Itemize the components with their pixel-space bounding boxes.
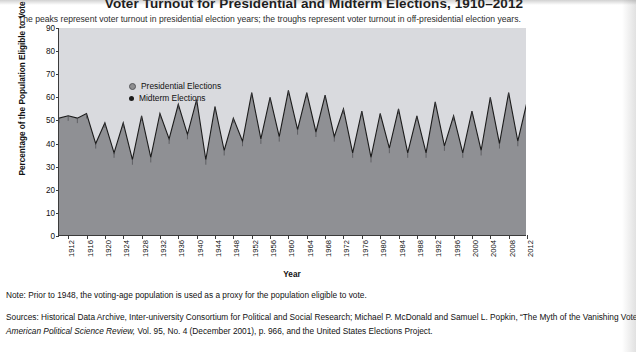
y-tick-mark bbox=[56, 28, 59, 29]
x-tick-label: 1960 bbox=[287, 240, 296, 257]
sources-line-1: Sources: Historical Data Archive, Inter-… bbox=[6, 312, 634, 322]
x-tick-mark bbox=[490, 235, 491, 239]
x-tick-label: 1940 bbox=[195, 240, 204, 257]
x-tick-mark bbox=[417, 235, 418, 239]
x-tick-label: 1976 bbox=[360, 240, 369, 257]
midterm-marker-icon bbox=[129, 96, 134, 101]
plot-inner bbox=[59, 28, 526, 235]
x-tick-label: 2000 bbox=[470, 240, 479, 257]
chart-note: Note: Prior to 1948, the voting-age popu… bbox=[6, 290, 626, 300]
x-tick-mark bbox=[197, 235, 198, 239]
x-tick-label: 1944 bbox=[214, 240, 223, 257]
x-tick-mark bbox=[215, 235, 216, 239]
x-tick-label: 1996 bbox=[452, 240, 461, 257]
x-tick-mark bbox=[307, 235, 308, 239]
x-tick-label: 1916 bbox=[85, 240, 94, 257]
plot-area: 0102030405060708090 19121916192019241928… bbox=[58, 28, 526, 236]
y-tick-mark bbox=[56, 97, 59, 98]
x-tick-label: 2004 bbox=[489, 240, 498, 257]
y-tick-label: 70 bbox=[35, 70, 55, 79]
x-tick-mark bbox=[435, 235, 436, 239]
legend-label-midterm: Midterm Elections bbox=[139, 92, 206, 104]
x-tick-label: 1972 bbox=[342, 240, 351, 257]
page-title: Voter Turnout for Presidential and Midte… bbox=[34, 0, 594, 11]
x-tick-label: 1988 bbox=[415, 240, 424, 257]
x-tick-label: 1920 bbox=[103, 240, 112, 257]
x-tick-label: 1924 bbox=[122, 240, 131, 257]
chart-subtitle: The peaks represent voter turnout in pre… bbox=[18, 14, 618, 24]
y-tick-label: 20 bbox=[35, 185, 55, 194]
x-tick-mark bbox=[399, 235, 400, 239]
x-tick-label: 1968 bbox=[324, 240, 333, 257]
x-tick-label: 1928 bbox=[140, 240, 149, 257]
x-tick-mark bbox=[343, 235, 344, 239]
x-tick-label: 1936 bbox=[177, 240, 186, 257]
x-tick-label: 1964 bbox=[305, 240, 314, 257]
y-tick-label: 60 bbox=[35, 93, 55, 102]
x-tick-mark bbox=[472, 235, 473, 239]
x-tick-mark bbox=[362, 235, 363, 239]
y-tick-label: 30 bbox=[35, 162, 55, 171]
x-axis-label: Year bbox=[58, 270, 526, 279]
x-tick-label: 2008 bbox=[507, 240, 516, 257]
y-tick-label: 90 bbox=[35, 24, 55, 33]
x-tick-mark bbox=[105, 235, 106, 239]
x-tick-mark bbox=[87, 235, 88, 239]
sources-line-2: American Political Science Review, Vol. … bbox=[6, 326, 634, 336]
presidential-marker-icon bbox=[129, 83, 136, 90]
chart-page: Voter Turnout for Presidential and Midte… bbox=[0, 0, 636, 352]
y-tick-label: 40 bbox=[35, 139, 55, 148]
turnout-area-fill bbox=[59, 90, 526, 235]
x-tick-label: 2012 bbox=[526, 240, 535, 257]
y-tick-label: 50 bbox=[35, 116, 55, 125]
y-tick-mark bbox=[56, 167, 59, 168]
x-tick-mark bbox=[178, 235, 179, 239]
x-tick-mark bbox=[509, 235, 510, 239]
y-axis-label: Percentage of the Population Eligible to… bbox=[18, 0, 27, 189]
sources-journal-title: American Political Science Review, bbox=[6, 326, 135, 336]
x-tick-label: 1992 bbox=[434, 240, 443, 257]
legend-item-presidential: Presidential Elections bbox=[129, 80, 221, 92]
x-tick-mark bbox=[454, 235, 455, 239]
x-tick-label: 1912 bbox=[67, 240, 76, 257]
y-tick-mark bbox=[56, 74, 59, 75]
turnout-area-chart bbox=[59, 28, 526, 235]
x-tick-mark bbox=[288, 235, 289, 239]
y-tick-mark bbox=[56, 236, 59, 237]
y-tick-label: 0 bbox=[35, 232, 55, 241]
x-tick-label: 1980 bbox=[379, 240, 388, 257]
x-tick-mark bbox=[160, 235, 161, 239]
x-tick-label: 1932 bbox=[158, 240, 167, 257]
x-tick-mark bbox=[270, 235, 271, 239]
x-tick-mark bbox=[123, 235, 124, 239]
legend-label-presidential: Presidential Elections bbox=[141, 80, 221, 92]
x-tick-label: 1984 bbox=[397, 240, 406, 257]
y-tick-mark bbox=[56, 144, 59, 145]
y-tick-mark bbox=[56, 120, 59, 121]
x-tick-mark bbox=[252, 235, 253, 239]
x-tick-mark bbox=[233, 235, 234, 239]
chart-legend: Presidential Elections Midterm Elections bbox=[129, 80, 221, 104]
x-tick-mark bbox=[325, 235, 326, 239]
x-tick-mark bbox=[380, 235, 381, 239]
x-tick-mark bbox=[68, 235, 69, 239]
y-tick-mark bbox=[56, 213, 59, 214]
y-tick-label: 10 bbox=[35, 208, 55, 217]
x-tick-label: 1948 bbox=[232, 240, 241, 257]
y-tick-mark bbox=[56, 51, 59, 52]
x-tick-mark bbox=[142, 235, 143, 239]
x-tick-label: 1952 bbox=[250, 240, 259, 257]
x-tick-mark bbox=[527, 235, 528, 239]
y-tick-mark bbox=[56, 190, 59, 191]
y-tick-label: 80 bbox=[35, 47, 55, 56]
sources-line-2-rest: Vol. 95, No. 4 (December 2001), p. 966, … bbox=[135, 326, 432, 336]
x-tick-label: 1956 bbox=[269, 240, 278, 257]
legend-item-midterm: Midterm Elections bbox=[129, 92, 221, 104]
